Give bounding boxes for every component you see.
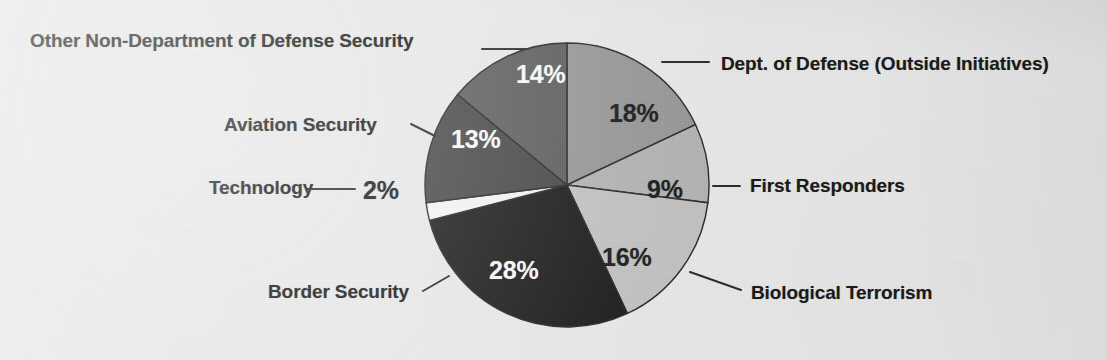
slice-value-border-security: 28% — [489, 258, 538, 283]
slice-value-aviation-security: 13% — [451, 127, 500, 152]
slice-value-other-non-department-of-defense-security: 14% — [516, 62, 565, 87]
leader-line-border — [423, 276, 449, 291]
slice-label-dept-of-defense-outside-initiatives: Dept. of Defense (Outside Initiatives) — [721, 54, 1049, 73]
slice-value-first-responders: 9% — [647, 177, 683, 202]
slice-value-biological-terrorism: 16% — [602, 245, 651, 270]
leader-line-aviation — [411, 124, 435, 136]
pie-chart: Other Non-Department of Defense Security… — [0, 0, 1107, 360]
slice-label-first-responders: First Responders — [750, 176, 905, 195]
slice-label-technology: Technology — [209, 178, 313, 197]
slice-value-technology: 2% — [363, 178, 399, 203]
slice-label-border-security: Border Security — [268, 282, 409, 301]
slice-label-biological-terrorism: Biological Terrorism — [751, 283, 932, 302]
leader-line-bio-terrorism — [690, 272, 741, 290]
slice-label-other-non-department-of-defense-security: Other Non-Department of Defense Security — [30, 31, 413, 50]
slice-label-aviation-security: Aviation Security — [224, 115, 377, 134]
slice-value-dept-of-defense-outside-initiatives: 18% — [609, 101, 658, 126]
